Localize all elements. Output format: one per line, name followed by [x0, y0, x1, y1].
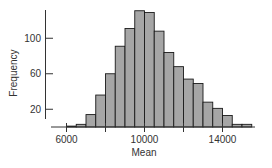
histogram-bar: [145, 13, 155, 127]
histogram-bar: [106, 74, 116, 127]
histogram-bar: [203, 102, 213, 127]
histogram-bars: [67, 11, 252, 127]
y-axis-title: Frequency: [8, 49, 19, 96]
x-tick-label: 6000: [55, 134, 78, 145]
histogram-bar: [193, 84, 203, 127]
y-tick-label: 100: [24, 33, 41, 44]
histogram-bar: [154, 31, 164, 127]
histogram-bar: [223, 115, 233, 127]
histogram-chart: 2060100 60001000014000 Mean Frequency: [0, 0, 272, 168]
histogram-bar: [213, 108, 223, 127]
histogram-bar: [164, 52, 174, 127]
x-axis-title: Mean: [131, 147, 156, 158]
histogram-bar: [135, 11, 145, 127]
histogram-bar: [174, 67, 184, 127]
histogram-bar: [125, 28, 135, 127]
histogram-bar: [86, 115, 96, 127]
x-tick-label: 14000: [209, 134, 237, 145]
histogram-bar: [184, 79, 194, 127]
y-tick-label: 20: [30, 104, 42, 115]
x-tick-label: 10000: [131, 134, 159, 145]
y-axis: 2060100: [24, 10, 53, 119]
y-tick-label: 60: [30, 68, 42, 79]
histogram-bar: [115, 46, 125, 127]
histogram-bar: [96, 95, 106, 127]
